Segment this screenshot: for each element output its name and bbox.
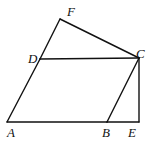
geometry-figure: F D C A B E	[0, 0, 151, 142]
segment-DF	[40, 19, 60, 59]
segment-FC	[60, 19, 139, 58]
label-E: E	[127, 125, 136, 140]
label-C: C	[136, 46, 145, 61]
label-A: A	[6, 125, 15, 140]
segments	[7, 19, 139, 122]
figure-canvas: F D C A B E	[0, 0, 151, 142]
segment-AD	[7, 59, 40, 122]
label-B: B	[102, 125, 110, 140]
label-F: F	[66, 4, 76, 19]
segment-CB	[107, 58, 139, 122]
label-D: D	[27, 51, 38, 66]
point-labels: F D C A B E	[6, 4, 145, 140]
segment-DC	[40, 58, 139, 59]
